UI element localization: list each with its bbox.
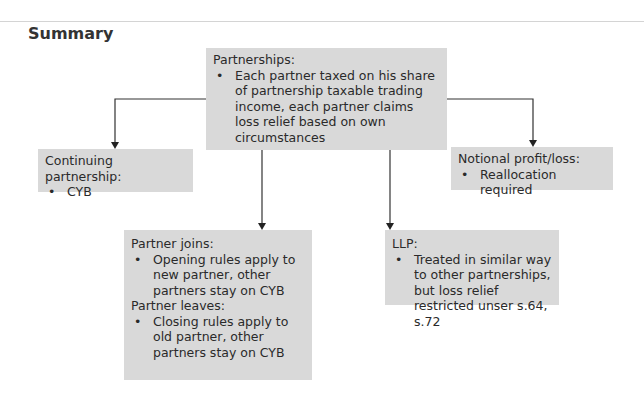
node-heading: Continuing partnership: [45, 153, 187, 184]
node-continuing-partnership: Continuing partnership: CYB [38, 149, 193, 192]
arrow-to-continuing [115, 99, 206, 142]
node-bullet: Reallocation required [458, 167, 607, 198]
node-bullet-2: Closing rules apply to old partner, othe… [131, 314, 306, 361]
node-partnerships: Partnerships: Each partner taxed on his … [206, 48, 447, 150]
node-notional-profit-loss: Notional profit/loss: Reallocation requi… [451, 147, 613, 190]
node-bullet: Treated in similar way to other partners… [392, 252, 553, 330]
node-heading: Notional profit/loss: [458, 151, 607, 167]
arrowhead-icon [258, 223, 266, 230]
arrowhead-icon [111, 142, 119, 149]
node-heading-2: Partner leaves: [131, 298, 306, 314]
node-heading: LLP: [392, 236, 553, 252]
node-heading: Partnerships: [213, 52, 441, 68]
node-llp: LLP: Treated in similar way to other par… [385, 230, 559, 305]
node-partner-joins-leaves: Partner joins: Opening rules apply to ne… [124, 230, 312, 380]
node-bullet: Each partner taxed on his share of partn… [213, 68, 441, 146]
node-heading: Partner joins: [131, 236, 306, 252]
arrow-to-notional [447, 99, 533, 140]
arrowhead-icon [386, 223, 394, 230]
node-bullet: Opening rules apply to new partner, othe… [131, 252, 306, 299]
arrowhead-icon [529, 140, 537, 147]
node-bullet: CYB [45, 184, 187, 200]
